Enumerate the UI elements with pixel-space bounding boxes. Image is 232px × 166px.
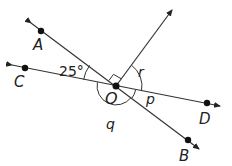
point-a [38,28,44,34]
label-a: A [32,36,43,54]
label-q: q [106,116,115,132]
angle-diagram: A C D B O 25° r p q [0,0,232,166]
label-p: p [145,91,155,107]
point-d [204,100,210,106]
label-d: D [199,110,211,128]
label-25: 25° [59,63,84,79]
angle-arc-25 [84,65,90,79]
point-b [185,137,191,143]
right-angle-mark [109,74,122,80]
label-c: C [14,73,25,91]
label-o: O [105,89,118,108]
label-r: r [138,64,145,80]
ray-up [116,10,172,86]
angle-arc-p [132,90,136,98]
point-c [22,65,28,71]
label-b: B [179,147,189,165]
